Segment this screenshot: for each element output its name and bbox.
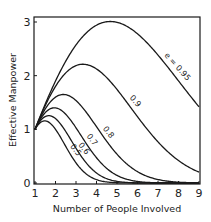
x-tick-label: 3	[73, 187, 80, 200]
y-tick-label: 1	[24, 123, 31, 136]
x-axis-label: Number of People Involved	[53, 203, 181, 214]
x-tick-label: 8	[175, 187, 182, 200]
x-tick-label: 6	[134, 187, 141, 200]
x-tick-label: 9	[196, 187, 203, 200]
y-tick-label: 0	[24, 177, 31, 190]
y-tick-label: 2	[24, 70, 31, 83]
y-axis: 0123	[24, 16, 38, 190]
x-tick-label: 5	[114, 187, 121, 200]
x-tick-label: 7	[155, 187, 162, 200]
curve-e-0-95	[35, 22, 199, 130]
effective-manpower-chart: 0123 123456789 e = 0.950.90.80.70.60.5 N…	[0, 0, 211, 222]
curve-e-0-9	[35, 64, 199, 172]
x-tick-label: 2	[52, 187, 59, 200]
plot-frame	[34, 17, 200, 184]
curve-e-0-8	[35, 94, 199, 182]
curve-e-0-5	[35, 121, 199, 183]
curves: e = 0.950.90.80.70.60.5	[35, 22, 199, 183]
y-tick-label: 3	[24, 16, 31, 29]
x-tick-label: 4	[93, 187, 100, 200]
x-tick-label: 1	[32, 187, 39, 200]
curve-label: 0.8	[101, 124, 116, 140]
curve-e-0-7	[35, 108, 199, 183]
y-axis-label: Effective Manpower	[7, 53, 18, 147]
curve-e-0-6	[35, 116, 199, 183]
